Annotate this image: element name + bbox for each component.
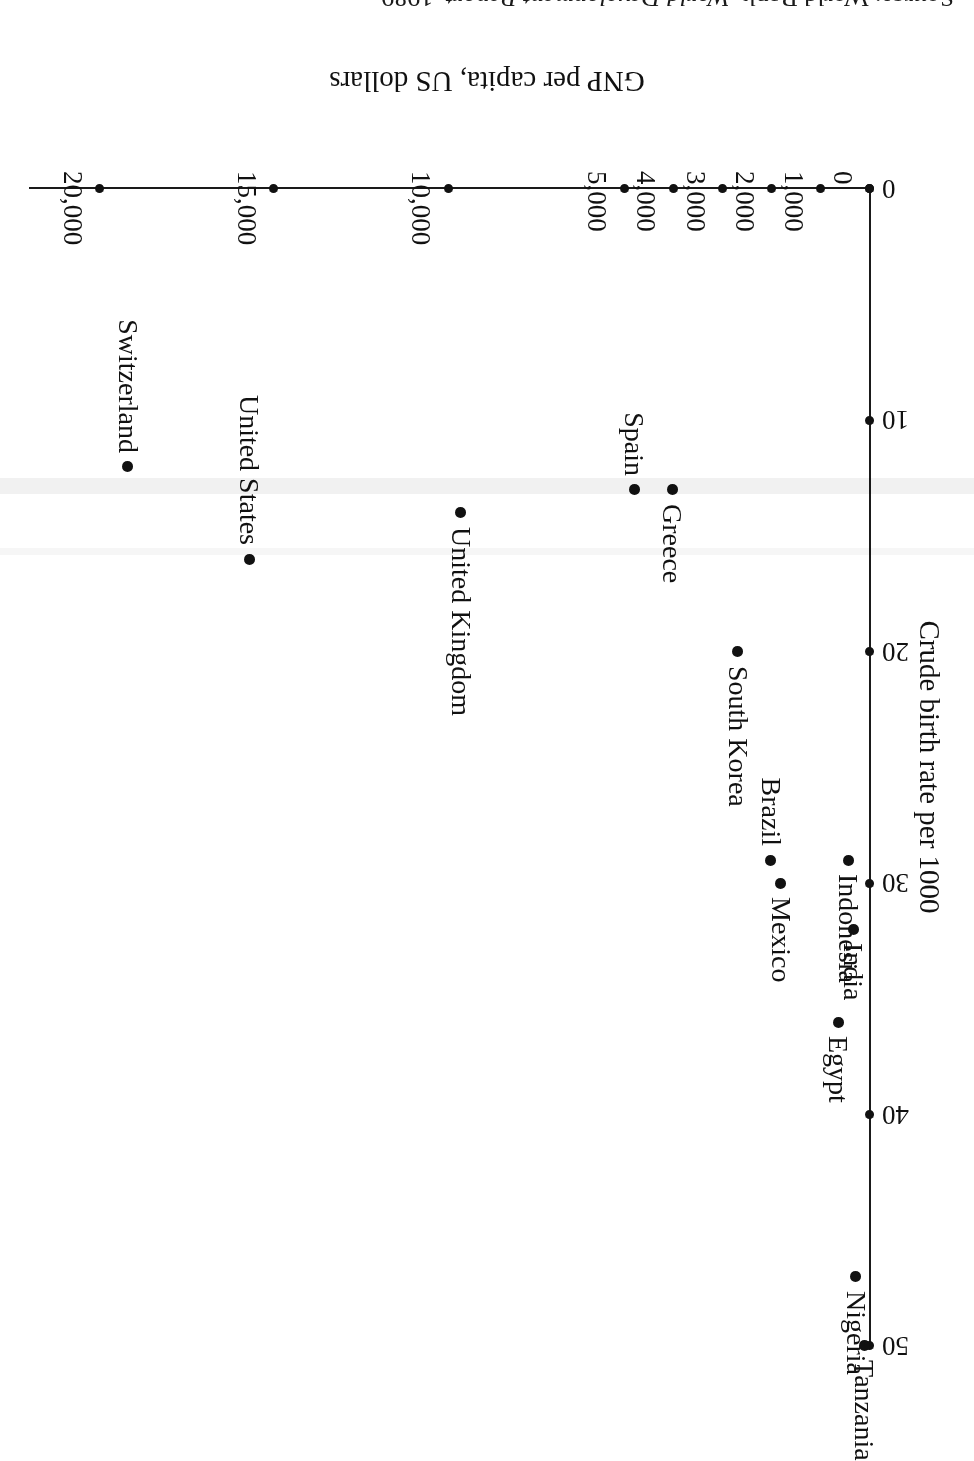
y-tick-label: 20 bbox=[870, 638, 909, 665]
data-point bbox=[244, 554, 255, 565]
y-tick-label: 10 bbox=[870, 407, 909, 434]
data-point-label: Mexico bbox=[767, 897, 795, 983]
x-axis-title: GNP per capita, US dollars bbox=[329, 68, 644, 97]
data-point-label: Spain bbox=[620, 412, 648, 476]
y-axis-line bbox=[869, 187, 871, 1346]
x-tick-label: 3,000 bbox=[682, 171, 709, 232]
data-point bbox=[455, 507, 466, 518]
source-year: , 1989 bbox=[381, 0, 446, 12]
x-tick-marker bbox=[620, 185, 629, 194]
x-tick-marker bbox=[718, 185, 727, 194]
data-point-label: Egypt bbox=[824, 1036, 852, 1103]
x-tick-label: 1,000 bbox=[780, 171, 807, 232]
data-point-label: United States bbox=[235, 395, 263, 545]
x-tick-label: 20,000 bbox=[59, 171, 86, 245]
x-tick-marker bbox=[767, 185, 776, 194]
x-tick-marker bbox=[95, 185, 104, 194]
data-point bbox=[850, 1271, 861, 1282]
data-point bbox=[667, 484, 678, 495]
data-point-label: Greece bbox=[658, 504, 686, 583]
x-tick-label: 10,000 bbox=[407, 171, 434, 245]
data-point bbox=[629, 484, 640, 495]
y-axis-title: Crude birth rate per 1000 bbox=[916, 620, 945, 913]
data-point-label: United Kingdom bbox=[447, 527, 475, 716]
y-tick-label: 0 bbox=[870, 176, 896, 203]
x-tick-label: 5,000 bbox=[583, 171, 610, 232]
data-point-label: Brazil bbox=[757, 778, 785, 846]
data-point bbox=[775, 878, 786, 889]
x-tick-marker bbox=[816, 185, 825, 194]
data-point bbox=[843, 855, 854, 866]
data-point-label: Indonesia bbox=[834, 874, 862, 983]
x-tick-label: 0 bbox=[829, 171, 856, 185]
source-title: World Development Report bbox=[446, 0, 730, 12]
data-point-label: Tanzania bbox=[850, 1360, 878, 1461]
x-tick-marker bbox=[444, 185, 453, 194]
data-point-label: South Korea bbox=[724, 666, 752, 807]
data-point-label: Switzerland bbox=[114, 319, 142, 453]
data-point bbox=[765, 855, 776, 866]
y-tick-label: 50 bbox=[870, 1333, 909, 1360]
x-tick-label: 2,000 bbox=[731, 171, 758, 232]
x-tick-label: 15,000 bbox=[233, 171, 260, 245]
x-tick-marker bbox=[269, 185, 278, 194]
x-tick-marker bbox=[669, 185, 678, 194]
data-point-label: Nigeria bbox=[842, 1291, 870, 1375]
x-tick-label: 4,000 bbox=[632, 171, 659, 232]
data-point bbox=[122, 461, 133, 472]
source-caption: Source: World Bank, World Development Re… bbox=[381, 0, 954, 10]
data-point bbox=[833, 1017, 844, 1028]
y-tick-label: 30 bbox=[870, 870, 909, 897]
y-tick-label: 40 bbox=[870, 1101, 909, 1128]
data-point bbox=[732, 646, 743, 657]
source-prefix: Source: World Bank, bbox=[736, 0, 954, 12]
